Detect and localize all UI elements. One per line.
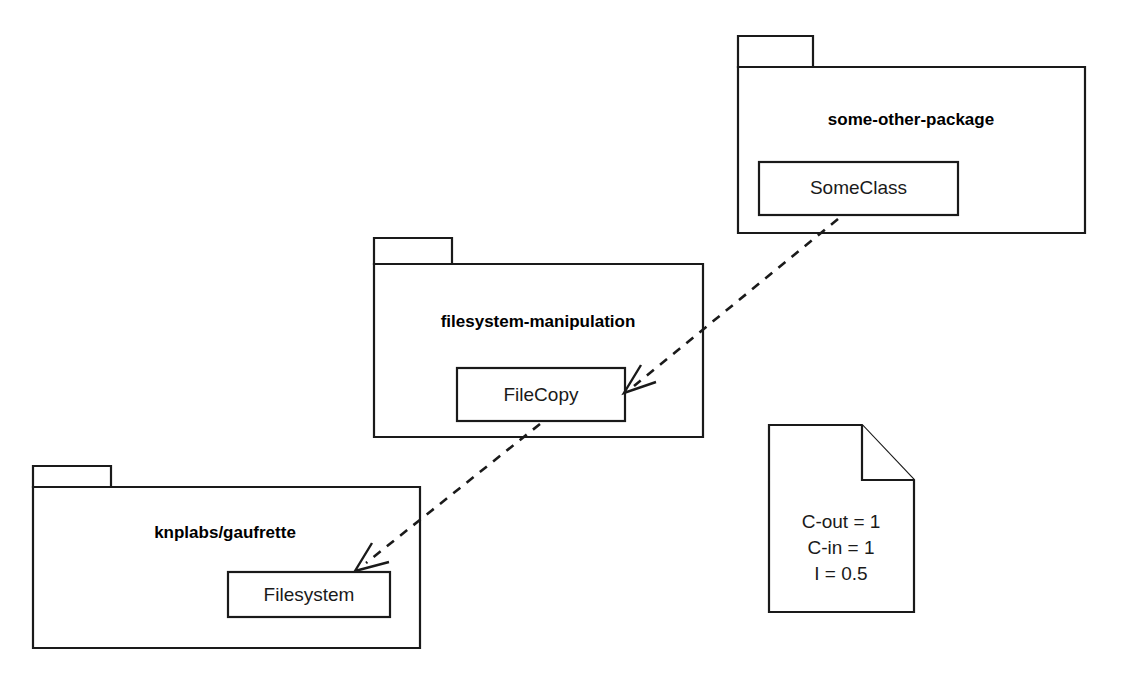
metrics-note[interactable]: C-out = 1 C-in = 1 I = 0.5	[769, 425, 914, 612]
package-label-some-other-package: some-other-package	[828, 110, 994, 129]
class-Filesystem[interactable]: Filesystem	[228, 572, 390, 617]
class-label-Filesystem: Filesystem	[264, 584, 355, 605]
package-body	[33, 487, 420, 648]
package-label-filesystem-manipulation: filesystem-manipulation	[441, 312, 636, 331]
diagram-canvas: some-other-package SomeClass filesystem-…	[0, 0, 1121, 681]
class-label-FileCopy: FileCopy	[504, 384, 579, 405]
note-line-c-out: C-out = 1	[802, 511, 881, 532]
uml-package-diagram: some-other-package SomeClass filesystem-…	[0, 0, 1121, 681]
note-line-instability: I = 0.5	[814, 563, 867, 584]
package-label-knplabs-gaufrette: knplabs/gaufrette	[154, 523, 296, 542]
package-knplabs-gaufrette[interactable]: knplabs/gaufrette Filesystem	[33, 466, 420, 648]
package-tab-icon	[374, 238, 452, 264]
package-tab-icon	[33, 466, 111, 487]
note-line-c-in: C-in = 1	[807, 537, 874, 558]
class-FileCopy[interactable]: FileCopy	[457, 368, 625, 421]
class-label-SomeClass: SomeClass	[810, 177, 907, 198]
package-some-other-package[interactable]: some-other-package SomeClass	[738, 36, 1085, 233]
class-SomeClass[interactable]: SomeClass	[759, 162, 958, 215]
package-tab-icon	[738, 36, 813, 67]
package-filesystem-manipulation[interactable]: filesystem-manipulation FileCopy	[374, 238, 703, 437]
